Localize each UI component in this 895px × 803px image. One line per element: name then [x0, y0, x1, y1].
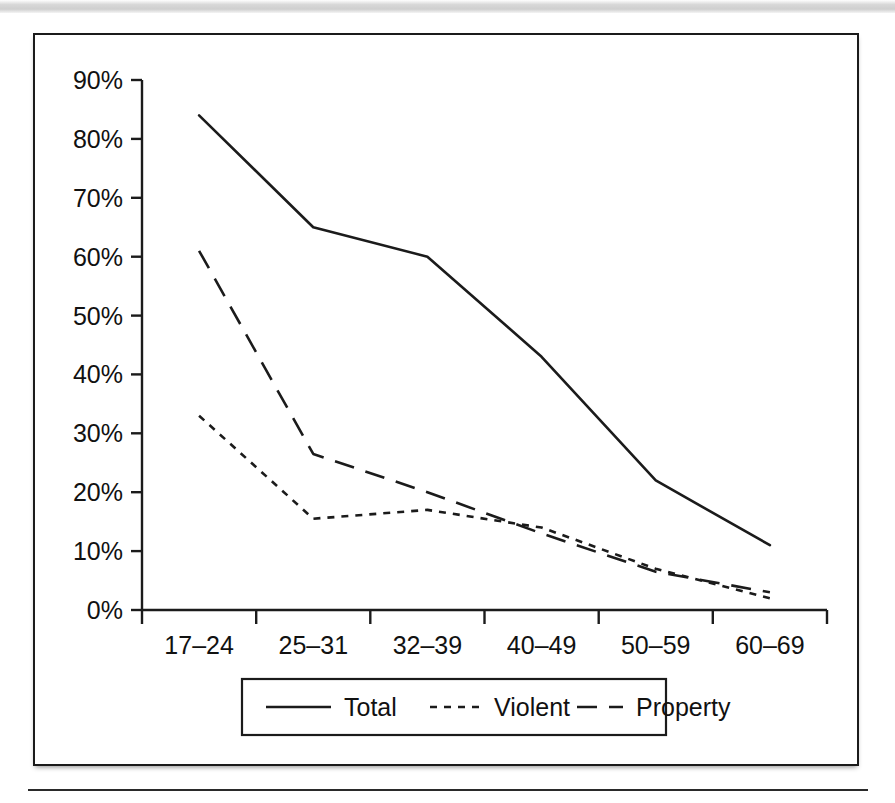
series-line-violent [199, 416, 770, 599]
y-tick-label-30: 30% [73, 419, 123, 447]
x-tick-label-25-31: 25–31 [279, 631, 349, 659]
y-tick-label-40: 40% [73, 360, 123, 388]
x-tick-label-17-24: 17–24 [164, 631, 234, 659]
chart-figure-frame: 90% 80% 70% 60% 50% 40% 30% 20% 10% 0% 1… [33, 33, 859, 766]
page-scan-band [0, 0, 895, 13]
x-tick-label-60-69: 60–69 [735, 631, 805, 659]
y-tick-label-50: 50% [73, 302, 123, 330]
y-tick-label-90: 90% [73, 66, 123, 94]
y-tick-marks [131, 80, 142, 610]
series-line-total [199, 115, 770, 545]
page-bottom-rule [28, 789, 868, 791]
x-tick-marks [142, 610, 827, 624]
y-axis-tick-labels: 90% 80% 70% 60% 50% 40% 30% 20% 10% 0% [73, 66, 123, 624]
y-tick-label-0: 0% [87, 596, 123, 624]
line-chart: 90% 80% 70% 60% 50% 40% 30% 20% 10% 0% 1… [35, 35, 861, 768]
y-tick-label-10: 10% [73, 537, 123, 565]
y-tick-label-80: 80% [73, 125, 123, 153]
x-axis-tick-labels: 17–24 25–31 32–39 40–49 50–59 60–69 [164, 631, 804, 659]
y-tick-label-70: 70% [73, 184, 123, 212]
x-tick-label-40-49: 40–49 [507, 631, 577, 659]
legend-label-violent: Violent [494, 693, 570, 721]
series-line-property [199, 251, 770, 593]
y-tick-label-20: 20% [73, 478, 123, 506]
x-tick-label-50-59: 50–59 [621, 631, 691, 659]
x-tick-label-32-39: 32–39 [393, 631, 463, 659]
chart-legend: Total Violent Property [242, 679, 731, 735]
legend-label-total: Total [344, 693, 397, 721]
y-tick-label-60: 60% [73, 243, 123, 271]
legend-label-property: Property [636, 693, 731, 721]
